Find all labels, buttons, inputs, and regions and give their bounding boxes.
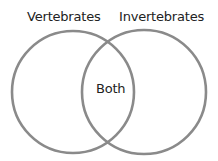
invertebrates-label: Invertebrates — [119, 10, 204, 23]
intersection-label: Both — [96, 82, 125, 95]
venn-diagram: Vertebrates Invertebrates Both — [0, 0, 218, 161]
vertebrates-label: Vertebrates — [27, 10, 101, 23]
